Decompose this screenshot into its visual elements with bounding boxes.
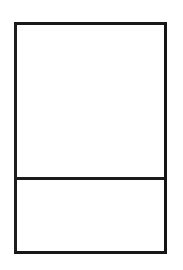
upper-panel (17, 25, 164, 177)
lower-panel (17, 180, 164, 251)
lower-panel-text (17, 180, 164, 251)
diagram-canvas (0, 0, 183, 270)
upper-panel-text (17, 25, 164, 177)
outer-rectangle (14, 22, 167, 254)
